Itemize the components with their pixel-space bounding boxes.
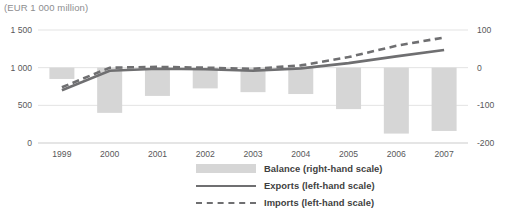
left-tick-label: 1 500 bbox=[10, 25, 32, 35]
bars-balance bbox=[49, 68, 456, 134]
bar-balance-2004[interactable] bbox=[288, 68, 313, 94]
left-axis-ticks: 05001 0001 500 bbox=[10, 25, 32, 148]
legend-item-imports[interactable]: Imports (left-hand scale) bbox=[0, 194, 524, 211]
right-axis-ticks: -200-1000100 bbox=[477, 25, 494, 148]
legend-label-balance: Balance (right-hand scale) bbox=[264, 163, 383, 174]
x-tick-label-2002: 2002 bbox=[196, 149, 215, 159]
legend-label-imports: Imports (left-hand scale) bbox=[264, 197, 374, 208]
x-axis-ticks: 199920002001200220032004200520062007 bbox=[38, 143, 468, 159]
x-tick-label-2004: 2004 bbox=[291, 149, 310, 159]
right-tick-label: -100 bbox=[477, 100, 494, 110]
x-tick-label-2005: 2005 bbox=[339, 149, 358, 159]
left-tick-label: 0 bbox=[27, 138, 32, 148]
legend-swatch-bar-icon bbox=[196, 164, 256, 173]
left-tick-label: 500 bbox=[18, 100, 33, 110]
bar-balance-2005[interactable] bbox=[336, 68, 361, 109]
x-tick-label-1999: 1999 bbox=[52, 149, 71, 159]
chart-plot: 05001 0001 500 -200-1000100 199920002001… bbox=[0, 0, 524, 160]
chart-legend: Balance (right-hand scale) Exports (left… bbox=[0, 160, 524, 211]
bar-balance-2007[interactable] bbox=[432, 68, 457, 131]
bar-balance-2006[interactable] bbox=[384, 68, 409, 134]
legend-swatch-solid-line-icon bbox=[196, 185, 256, 187]
right-tick-label: 0 bbox=[477, 63, 482, 73]
x-tick-label-2000: 2000 bbox=[100, 149, 119, 159]
right-tick-label: 100 bbox=[477, 25, 492, 35]
x-tick-label-2006: 2006 bbox=[387, 149, 406, 159]
x-tick-label-2001: 2001 bbox=[148, 149, 167, 159]
right-tick-label: -200 bbox=[477, 138, 494, 148]
bar-balance-1999[interactable] bbox=[49, 68, 74, 79]
legend-swatch-dashed-line-icon bbox=[196, 202, 256, 204]
left-tick-label: 1 000 bbox=[10, 63, 32, 73]
x-tick-label-2003: 2003 bbox=[243, 149, 262, 159]
x-tick-label-2007: 2007 bbox=[435, 149, 454, 159]
chart-container: (EUR 1 000 million) 05001 0001 500 -200-… bbox=[0, 0, 524, 212]
legend-item-exports[interactable]: Exports (left-hand scale) bbox=[0, 177, 524, 194]
bar-balance-2001[interactable] bbox=[145, 68, 170, 96]
legend-item-balance[interactable]: Balance (right-hand scale) bbox=[0, 160, 524, 177]
legend-label-exports: Exports (left-hand scale) bbox=[264, 180, 375, 191]
